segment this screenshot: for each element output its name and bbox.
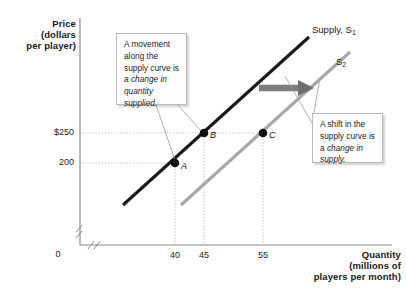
point-label-b: B	[210, 130, 216, 141]
x-tick-label-45: 45	[192, 250, 216, 261]
point-a	[171, 159, 180, 168]
x-axis-title: Quantity (millions of players per month)	[268, 249, 401, 283]
origin-label: 0	[48, 249, 68, 260]
y-tick-label-200: 200	[28, 157, 74, 168]
callout-shift: A shift in the supply curve is a change …	[312, 113, 383, 163]
callout-movement-line3: supply curve	[124, 63, 171, 73]
callout-movement-line5-italic: quantity	[124, 86, 153, 96]
point-label-c: C	[269, 130, 276, 141]
y-axis-title: Price (dollars per player)	[8, 18, 76, 52]
curve-label-s2-subscript: 2	[342, 61, 346, 68]
callout-movement-line1: A movement	[124, 39, 170, 49]
x-tick-label-55: 55	[251, 250, 275, 261]
curve-label-s1-text: Supply, S	[312, 24, 352, 35]
curve-label-s2: S2	[336, 56, 346, 67]
callout-movement-line6-italic: supplied.	[124, 98, 157, 108]
x-tick-label-40: 40	[163, 250, 187, 261]
callout-movement-line4-italic: change in	[131, 74, 167, 84]
callout-movement-line2: along the	[124, 51, 158, 61]
leader-movement-to-b	[178, 105, 201, 131]
curve-label-s1: Supply, S1	[312, 24, 356, 35]
callout-shift-line4-italic: supply.	[320, 154, 346, 164]
callout-shift-line1: A shift in the	[320, 119, 365, 129]
y-break-2	[76, 225, 82, 232]
callout-shift-line3-italic: change in	[327, 143, 363, 153]
curve-label-s1-subscript: 1	[352, 29, 356, 36]
callout-movement: A movement along the supply curve is a c…	[116, 33, 187, 105]
callout-shift-line2: supply curve	[320, 131, 367, 141]
y-break-1	[76, 231, 82, 238]
point-label-a: A	[181, 161, 187, 172]
point-c	[259, 129, 268, 138]
leader-movement-to-a	[156, 105, 175, 160]
point-b	[200, 129, 209, 138]
supply-curve-figure: Price (dollars per player) Quantity (mil…	[0, 0, 406, 301]
y-tick-label-250: $250	[28, 127, 74, 138]
